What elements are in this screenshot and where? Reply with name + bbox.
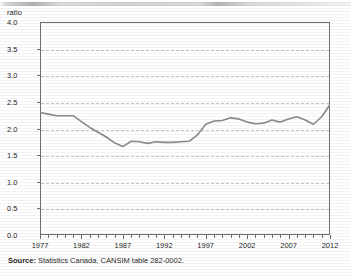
x-axis-tick-mark bbox=[272, 235, 273, 238]
y-axis-tick-label: 3.0 bbox=[7, 71, 35, 80]
x-axis-tick-mark bbox=[65, 235, 66, 238]
x-axis-tick-mark bbox=[214, 235, 215, 238]
x-axis-tick-mark bbox=[123, 235, 124, 239]
x-axis-tick-mark bbox=[98, 235, 99, 238]
x-axis-tick-mark bbox=[139, 235, 140, 238]
x-axis-tick-label: 1997 bbox=[197, 241, 214, 250]
x-axis-tick-mark bbox=[48, 235, 49, 238]
y-axis-tick-label: 1.5 bbox=[7, 151, 35, 160]
x-axis-tick-mark bbox=[239, 235, 240, 238]
x-axis-tick-label: 1992 bbox=[156, 241, 173, 250]
x-axis-tick-label: 1987 bbox=[115, 241, 132, 250]
x-axis-tick-mark bbox=[164, 235, 165, 239]
y-axis-tick-label: 0.5 bbox=[7, 204, 35, 213]
x-axis-tick-mark bbox=[330, 235, 331, 239]
y-axis-tick-label: 1.0 bbox=[7, 177, 35, 186]
source-text: Statistics Canada, CANSIM table 282-0002… bbox=[36, 256, 184, 265]
x-axis-tick-mark bbox=[81, 235, 82, 239]
chart-series-line bbox=[40, 22, 330, 235]
x-axis-tick-label: 1982 bbox=[73, 241, 90, 250]
x-axis-tick-label: 2012 bbox=[322, 241, 339, 250]
x-axis-tick-mark bbox=[313, 235, 314, 238]
x-axis-tick-mark bbox=[181, 235, 182, 238]
source-note: Source: Statistics Canada, CANSIM table … bbox=[8, 256, 184, 265]
x-axis-tick-mark bbox=[115, 235, 116, 238]
source-label: Source: bbox=[8, 256, 36, 265]
x-axis-tick-mark bbox=[156, 235, 157, 238]
x-axis-tick-mark bbox=[289, 235, 290, 239]
x-axis-tick-mark bbox=[255, 235, 256, 238]
x-axis-tick-mark bbox=[73, 235, 74, 238]
x-axis-tick-mark bbox=[247, 235, 248, 239]
x-axis-tick-mark bbox=[206, 235, 207, 239]
x-axis-tick-mark bbox=[280, 235, 281, 238]
x-axis-tick-mark bbox=[148, 235, 149, 238]
x-axis-tick-mark bbox=[222, 235, 223, 238]
x-axis-tick-label: 2007 bbox=[280, 241, 297, 250]
x-axis-tick-mark bbox=[305, 235, 306, 238]
y-axis-tick-label: 2.5 bbox=[7, 97, 35, 106]
y-axis-tick-label: 2.0 bbox=[7, 124, 35, 133]
x-axis-tick-mark bbox=[197, 235, 198, 238]
x-axis-tick-mark bbox=[231, 235, 232, 238]
page-scan-artifact bbox=[0, 2, 351, 6]
x-axis-tick-mark bbox=[264, 235, 265, 238]
x-axis-tick-mark bbox=[131, 235, 132, 238]
x-axis-tick-label: 1977 bbox=[32, 241, 49, 250]
y-axis-tick-label: 0.0 bbox=[7, 231, 35, 240]
x-axis-tick-mark bbox=[90, 235, 91, 238]
x-axis-tick-label: 2002 bbox=[239, 241, 256, 250]
x-axis-tick-mark bbox=[106, 235, 107, 238]
x-axis-tick-mark bbox=[173, 235, 174, 238]
y-axis-unit-label: ratio bbox=[7, 8, 22, 17]
y-axis-tick-label: 3.5 bbox=[7, 44, 35, 53]
x-axis-tick-mark bbox=[297, 235, 298, 238]
x-axis-tick-mark bbox=[40, 235, 41, 239]
x-axis-tick-mark bbox=[322, 235, 323, 238]
y-axis-tick-label: 4.0 bbox=[7, 18, 35, 27]
x-axis-tick-mark bbox=[189, 235, 190, 238]
x-axis-tick-mark bbox=[57, 235, 58, 238]
